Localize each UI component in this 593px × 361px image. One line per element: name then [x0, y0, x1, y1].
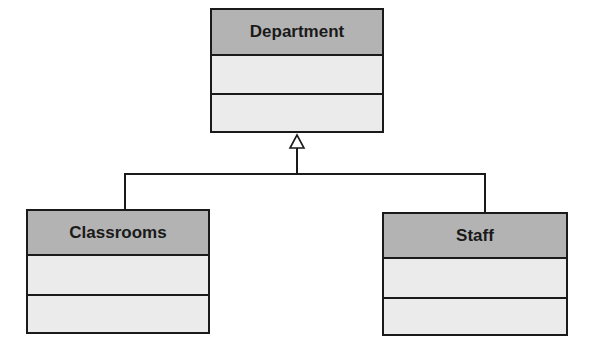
class-classrooms[interactable]: Classrooms	[26, 209, 210, 334]
class-staff[interactable]: Staff	[382, 212, 568, 336]
generalization-arrow-icon	[290, 135, 304, 148]
attributes-compartment	[212, 56, 382, 95]
methods-compartment	[384, 299, 566, 334]
attributes-compartment	[384, 259, 566, 299]
methods-compartment	[212, 95, 382, 131]
attributes-compartment	[28, 256, 208, 296]
class-name: Classrooms	[28, 211, 208, 256]
methods-compartment	[28, 296, 208, 332]
class-name: Department	[212, 10, 382, 56]
class-name: Staff	[384, 214, 566, 259]
class-department[interactable]: Department	[210, 8, 384, 133]
